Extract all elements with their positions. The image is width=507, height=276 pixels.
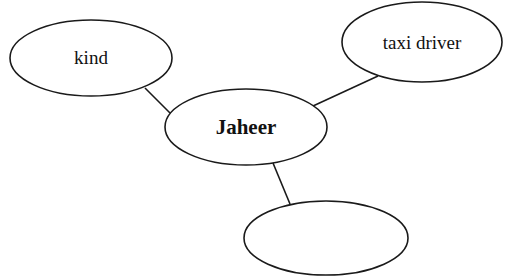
edge-jaheer-taxi-driver bbox=[313, 76, 378, 106]
node-empty-ellipse bbox=[244, 201, 408, 275]
edge-jaheer-kind bbox=[145, 88, 170, 113]
node-taxi-driver-label: taxi driver bbox=[383, 32, 462, 54]
node-center-label: Jaheer bbox=[216, 115, 277, 140]
node-kind-label: kind bbox=[74, 47, 108, 69]
mind-map-diagram: kind taxi driver Jaheer bbox=[0, 0, 507, 276]
edge-jaheer-empty bbox=[273, 163, 290, 204]
